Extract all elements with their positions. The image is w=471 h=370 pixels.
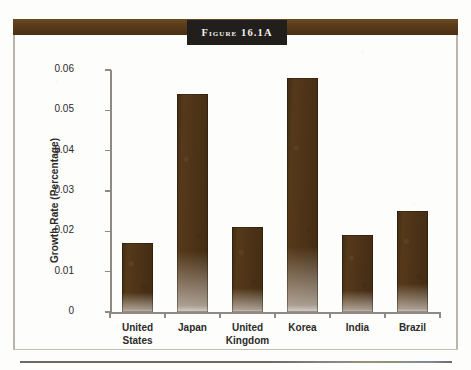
y-axis-tick-label: 0.03	[14, 184, 74, 195]
category-label-brazil: Brazil	[385, 322, 440, 335]
frame-border-bottom	[13, 349, 458, 350]
category-label-japan: Japan	[165, 322, 220, 335]
bar-india	[342, 235, 373, 312]
category-label-united-states: UnitedStates	[110, 322, 165, 347]
bottom-rule	[20, 361, 452, 363]
y-axis-tick-label: 0.05	[14, 103, 74, 114]
x-axis-tick	[384, 312, 386, 318]
y-axis-tick	[105, 231, 111, 233]
category-label-korea: Korea	[275, 322, 330, 335]
figure-title: Figure 16.1A	[201, 27, 272, 38]
category-label-line: States	[110, 335, 165, 348]
y-axis-tick	[105, 271, 111, 273]
bar-japan	[177, 94, 208, 312]
x-axis-tick	[164, 312, 166, 318]
y-axis-tick	[105, 110, 111, 112]
x-axis-tick	[439, 312, 441, 318]
y-axis-tick-label: 0.04	[14, 144, 74, 155]
category-label-line: India	[330, 322, 385, 335]
chart-plot-area: Growth Rate (Percentage) 00.010.020.030.…	[13, 35, 458, 349]
y-axis-tick-label: 0.06	[14, 63, 74, 74]
category-label-united-kingdom: UnitedKingdom	[220, 322, 275, 347]
figure-container: Figure 16.1A Growth Rate (Percentage) 00…	[0, 0, 471, 370]
x-axis-tick	[109, 312, 111, 318]
bar-korea	[287, 78, 318, 312]
bar-united-kingdom	[232, 227, 263, 312]
y-axis-tick	[105, 190, 111, 192]
category-label-line: Brazil	[385, 322, 440, 335]
category-label-line: Kingdom	[220, 335, 275, 348]
y-axis-tick	[105, 150, 111, 152]
category-label-line: United	[220, 322, 275, 335]
category-label-line: United	[110, 322, 165, 335]
y-axis-tick-label: 0	[14, 305, 74, 316]
x-axis-tick	[219, 312, 221, 318]
category-label-india: India	[330, 322, 385, 335]
bar-united-states	[122, 243, 153, 312]
y-axis-tick	[105, 69, 111, 71]
figure-title-plaque: Figure 16.1A	[187, 20, 287, 45]
x-axis-tick	[274, 312, 276, 318]
category-label-line: Korea	[275, 322, 330, 335]
y-axis-tick-label: 0.01	[14, 265, 74, 276]
y-axis-tick-label: 0.02	[14, 224, 74, 235]
x-axis-tick	[329, 312, 331, 318]
y-axis-title: Growth Rate (Percentage)	[49, 116, 60, 286]
bar-brazil	[397, 211, 428, 312]
category-label-line: Japan	[165, 322, 220, 335]
